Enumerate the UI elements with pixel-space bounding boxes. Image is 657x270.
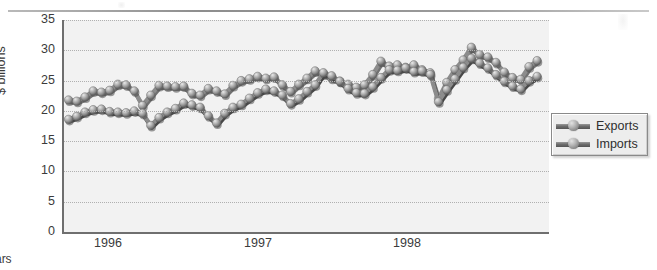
data-point-marker <box>327 72 335 80</box>
x-tick-label: 1997 <box>244 236 272 250</box>
legend-label-exports: Exports <box>596 120 638 133</box>
x-axis-title: Years <box>0 252 657 266</box>
data-point-marker <box>89 105 97 113</box>
legend-sphere-icon <box>568 120 579 131</box>
y-tick-label: 30 <box>5 43 55 56</box>
gridline <box>64 81 549 82</box>
data-point-marker <box>459 63 467 71</box>
data-point-marker <box>188 101 196 109</box>
data-point-marker <box>492 58 500 66</box>
data-point-marker <box>525 62 533 70</box>
data-point-marker <box>245 94 253 102</box>
data-point-marker <box>64 115 72 123</box>
data-point-marker <box>516 85 524 93</box>
data-point-marker <box>492 70 500 78</box>
data-point-marker <box>73 112 81 120</box>
data-point-marker <box>253 88 261 96</box>
data-point-marker <box>155 81 163 89</box>
data-point-marker <box>434 98 442 106</box>
data-point-marker <box>89 87 97 95</box>
data-point-marker <box>163 108 171 116</box>
data-point-marker <box>270 87 278 95</box>
data-point-marker <box>451 75 459 83</box>
data-point-marker <box>212 119 220 127</box>
data-point-marker <box>418 67 426 75</box>
data-point-marker <box>147 121 155 129</box>
data-point-marker <box>179 99 187 107</box>
gridline <box>64 171 549 172</box>
gridline <box>64 141 549 142</box>
data-point-marker <box>533 56 541 64</box>
y-axis-ticks: 35302520151050 <box>0 0 55 252</box>
y-tick-label: 25 <box>5 74 55 87</box>
chart-legend[interactable]: Exports Imports <box>551 113 648 156</box>
data-point-marker <box>311 81 319 89</box>
y-tick-label: 0 <box>5 225 55 238</box>
data-point-marker <box>163 82 171 90</box>
gridline <box>64 20 549 21</box>
data-point-marker <box>122 108 130 116</box>
data-point-marker <box>294 95 302 103</box>
data-point-marker <box>533 72 541 80</box>
gridline <box>64 50 549 51</box>
data-point-marker <box>368 82 376 90</box>
data-point-marker <box>204 84 212 92</box>
data-point-marker <box>286 99 294 107</box>
data-point-marker <box>188 89 196 97</box>
gridline <box>64 202 549 203</box>
data-point-marker <box>73 97 81 105</box>
data-point-marker <box>484 64 492 72</box>
data-point-marker <box>385 65 393 73</box>
data-point-marker <box>105 86 113 94</box>
data-point-marker <box>122 81 130 89</box>
data-point-marker <box>196 91 204 99</box>
legend-item-exports[interactable]: Exports <box>556 117 643 135</box>
data-point-marker <box>508 82 516 90</box>
data-point-marker <box>484 53 492 61</box>
data-point-marker <box>81 93 89 101</box>
data-point-marker <box>360 81 368 89</box>
data-point-marker <box>344 84 352 92</box>
data-point-marker <box>516 75 524 83</box>
data-point-marker <box>253 72 261 80</box>
data-point-marker <box>467 54 475 62</box>
data-point-marker <box>179 82 187 90</box>
data-point-marker <box>138 101 146 109</box>
data-point-marker <box>410 67 418 75</box>
x-axis-title-text: Years <box>0 252 12 266</box>
line-chart: 35302520151050 $ billions 199619971998 Y… <box>0 0 657 270</box>
data-point-marker <box>245 75 253 83</box>
data-point-marker <box>500 68 508 76</box>
plot-inner <box>64 20 549 232</box>
legend-sphere-icon <box>568 138 579 149</box>
y-tick-label: 10 <box>5 164 55 177</box>
data-point-marker <box>130 87 138 95</box>
legend-item-imports[interactable]: Imports <box>556 135 643 153</box>
x-tick-label: 1998 <box>393 236 421 250</box>
data-point-marker <box>475 59 483 67</box>
data-point-marker <box>262 85 270 93</box>
data-point-marker <box>147 91 155 99</box>
data-point-marker <box>377 57 385 65</box>
data-point-marker <box>114 108 122 116</box>
series-layer <box>64 20 549 232</box>
legend-swatch-icon <box>556 120 590 132</box>
chart-page: 35302520151050 $ billions 199619971998 Y… <box>0 0 657 270</box>
x-tick-label: 1996 <box>94 236 122 250</box>
data-point-marker <box>171 82 179 90</box>
data-point-marker <box>204 112 212 120</box>
data-point-marker <box>221 90 229 98</box>
y-tick-label: 5 <box>5 195 55 208</box>
data-point-marker <box>155 113 163 121</box>
y-axis-title: $ billions <box>0 46 8 95</box>
gridline <box>64 111 549 112</box>
data-point-marker <box>286 87 294 95</box>
data-point-marker <box>97 88 105 96</box>
data-point-marker <box>401 64 409 72</box>
data-point-marker <box>64 96 72 104</box>
data-point-marker <box>360 89 368 97</box>
data-point-marker <box>426 70 434 78</box>
data-point-marker <box>319 68 327 76</box>
data-point-marker <box>97 105 105 113</box>
y-tick-label: 20 <box>5 104 55 117</box>
